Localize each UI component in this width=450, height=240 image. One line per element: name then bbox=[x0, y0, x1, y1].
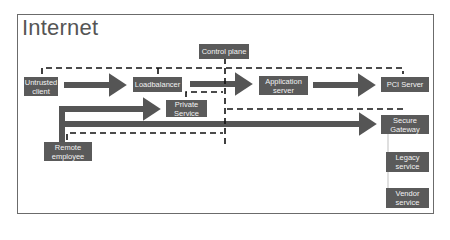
node-untrusted-client: Untrusted client bbox=[24, 77, 58, 96]
node-loadbalancer: Loadbalancer bbox=[133, 77, 182, 92]
node-vendor-service: Vendor service bbox=[386, 188, 429, 208]
node-legacy-service: Legacy service bbox=[386, 152, 429, 172]
node-secure-gateway: Secure Gateway bbox=[381, 115, 429, 134]
control-plane-dashed-links bbox=[42, 58, 403, 148]
node-private-service: Private Service bbox=[166, 100, 207, 117]
node-pci-server: PCI Server bbox=[381, 77, 429, 92]
node-application-server: Application server bbox=[259, 76, 308, 95]
node-remote-employee: Remote employee bbox=[44, 142, 92, 161]
node-control-plane: Control plane bbox=[199, 44, 249, 59]
